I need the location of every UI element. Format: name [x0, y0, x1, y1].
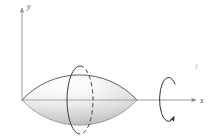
scan-artifact-mark	[195, 64, 198, 69]
solid-of-revolution-figure: y x	[0, 0, 210, 138]
lens-solid	[22, 75, 137, 126]
x-axis-label: x	[199, 96, 204, 105]
rotation-arrow-path	[160, 77, 175, 121]
y-axis-label: y	[26, 2, 31, 11]
rotation-direction-arrow	[160, 77, 175, 121]
figure-container: y x	[0, 0, 210, 138]
